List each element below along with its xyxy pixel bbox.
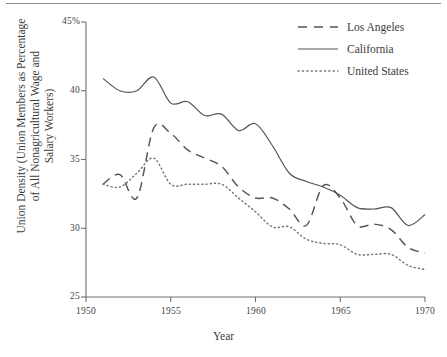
solid-line-key-icon: [296, 43, 340, 55]
dotted-line-key-icon: [296, 65, 340, 77]
x-tick-label-1950: 1950: [62, 306, 110, 316]
legend-label-los-angeles: Los Angeles: [340, 21, 404, 33]
chart-legend: Los Angeles California United States: [296, 16, 446, 82]
data-series-group: [103, 77, 425, 270]
x-axis-ticks: [86, 297, 425, 302]
legend-item-los-angeles: Los Angeles: [296, 16, 446, 38]
legend-item-united-states: United States: [296, 60, 446, 82]
x-axis-title: Year: [0, 330, 447, 342]
dashed-line-key-icon: [296, 21, 340, 33]
legend-label-united-states: United States: [340, 65, 409, 77]
series-line-california: [103, 77, 425, 226]
x-tick-label-1965: 1965: [317, 306, 365, 316]
x-tick-label-1960: 1960: [232, 306, 280, 316]
x-tick-label-1970: 1970: [401, 306, 447, 316]
series-line-united-states: [103, 158, 425, 270]
x-tick-label-1955: 1955: [147, 306, 195, 316]
legend-label-california: California: [340, 43, 394, 55]
chart-figure: 45% 40 35 30 25 1950 1955 1960 1965 1970…: [0, 0, 447, 357]
y-axis-title-line-3: Salary Workers): [43, 89, 55, 164]
y-axis-title: Union Density (Union Members as Percenta…: [13, 0, 57, 269]
y-axis-title-line-1: Union Density (Union Members as Percenta…: [15, 19, 27, 234]
y-axis-ticks: [81, 22, 86, 297]
y-axis-title-line-2: of All Nonagricultural Wage and: [29, 51, 41, 201]
y-tick-label-25: 25: [40, 291, 80, 301]
legend-item-california: California: [296, 38, 446, 60]
series-line-los-angeles: [103, 124, 425, 253]
